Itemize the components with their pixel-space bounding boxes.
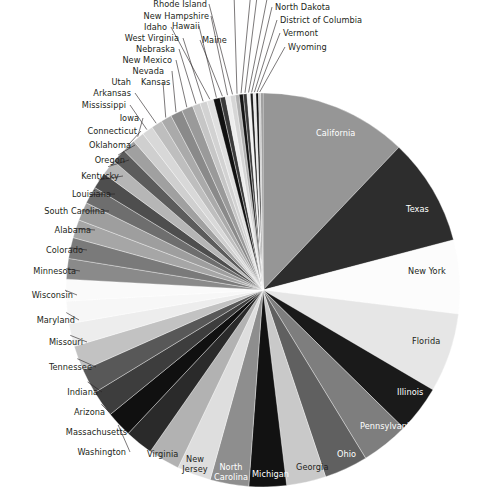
slice-label-illinois: Illinois xyxy=(397,388,423,398)
slice-label-oklahoma: Oklahoma xyxy=(0,141,131,151)
slice-label-missouri: Missouri xyxy=(0,338,83,348)
slice-label-massachusetts: Massachusetts xyxy=(0,428,127,438)
slice-label-california: California xyxy=(316,129,355,139)
slice-label-tennessee: Tennessee xyxy=(0,363,92,373)
leader-line xyxy=(172,71,176,112)
slice-label-connecticut: Connecticut xyxy=(0,127,137,137)
slice-label-louisiana: Louisiana xyxy=(0,190,111,200)
slice-label-new-jersey-line2: Jersey xyxy=(182,464,207,474)
slice-label-hawaii: Hawaii xyxy=(172,22,200,32)
leader-line xyxy=(211,16,228,95)
slice-label-indiana: Indiana xyxy=(0,388,98,398)
slice-label-north-dakota: North Dakota xyxy=(275,3,330,13)
slice-label-new-jersey-line1: New xyxy=(186,454,204,464)
slice-label-colorado: Colorado xyxy=(0,246,83,256)
slice-label-iowa: Iowa xyxy=(0,114,139,124)
slice-label-ohio: Ohio xyxy=(337,450,356,460)
slice-label-mississippi: Mississippi xyxy=(0,101,126,111)
slice-label-north-carolina: North Carolina xyxy=(211,463,251,482)
slice-label-texas: Texas xyxy=(406,205,429,215)
slice-label-alabama: Alabama xyxy=(0,226,91,236)
slice-label-kentucky: Kentucky xyxy=(0,172,119,182)
slice-label-florida: Florida xyxy=(412,337,440,347)
slice-label-michigan: Michigan xyxy=(252,470,289,480)
slice-label-district-of-columbia: District of Columbia xyxy=(280,16,362,26)
slice-label-nevada: Nevada xyxy=(0,67,164,77)
slice-label-minnesota: Minnesota xyxy=(0,267,76,277)
slice-label-west-virginia: West Virginia xyxy=(0,34,179,44)
slice-label-idaho: Idaho xyxy=(0,23,167,33)
slice-label-utah: Utah xyxy=(0,78,131,88)
slice-label-kansas: Kansas xyxy=(141,78,170,88)
slice-label-maryland: Maryland xyxy=(0,316,75,326)
pie-chart-figure: California Texas New York Florida Illino… xyxy=(0,0,487,504)
slice-label-georgia: Georgia xyxy=(296,463,328,473)
leader-line xyxy=(249,0,268,93)
slice-label-washington: Washington xyxy=(0,448,126,458)
slice-label-arizona: Arizona xyxy=(0,408,105,418)
slice-label-maine: Maine xyxy=(202,36,227,46)
slice-label-virginia: Virginia xyxy=(147,450,178,460)
slice-label-new-hampshire: New Hampshire xyxy=(0,12,209,22)
leader-line xyxy=(234,0,237,94)
slice-label-arkansas: Arkansas xyxy=(0,89,131,99)
slice-label-north-carolina-line2: Carolina xyxy=(214,472,248,482)
slice-label-wyoming: Wyoming xyxy=(288,43,327,53)
leader-line xyxy=(245,0,259,93)
leader-line xyxy=(176,60,187,107)
slice-label-wisconsin: Wisconsin xyxy=(0,291,73,301)
slice-label-rhode-island: Rhode Island xyxy=(0,0,207,10)
slice-label-new-jersey: New Jersey xyxy=(178,455,212,474)
slice-label-south-carolina: South Carolina xyxy=(0,207,105,217)
slice-label-pennsylvania: Pennsylvania xyxy=(360,422,414,432)
slice-label-new-york: New York xyxy=(408,267,446,277)
slice-label-nebraska: Nebraska xyxy=(0,45,175,55)
slice-label-oregon: Oregon xyxy=(0,156,125,166)
leader-line xyxy=(183,38,203,101)
leader-line xyxy=(260,47,285,92)
slice-label-vermont: Vermont xyxy=(283,29,318,39)
slice-label-new-mexico: New Mexico xyxy=(0,56,172,66)
slice-label-north-carolina-line1: North xyxy=(219,462,242,472)
